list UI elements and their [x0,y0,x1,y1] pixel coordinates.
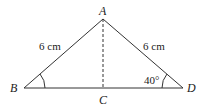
side-AD [103,19,183,88]
vertex-label-D: D [186,81,196,95]
angle-arc-B [40,74,45,88]
angle-label-D: 40° [144,74,159,86]
angle-arc-D [162,74,167,88]
vertex-label-B: B [10,81,18,95]
side-AB [24,19,103,88]
vertex-label-A: A [98,4,107,18]
triangle-diagram: A B C D 6 cm 6 cm 40° [0,0,209,110]
side-length-AB: 6 cm [39,40,61,52]
vertex-label-C: C [99,93,108,107]
side-length-AD: 6 cm [143,40,165,52]
